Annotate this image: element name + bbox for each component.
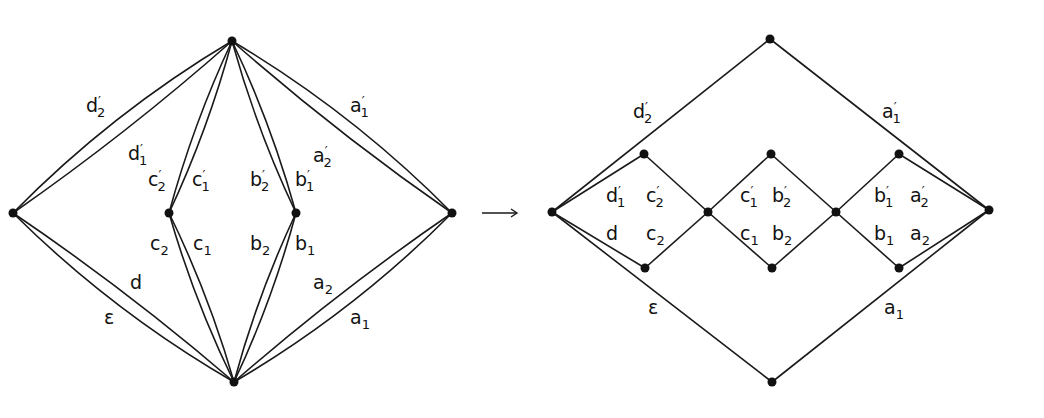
vertex-bottom [230,378,239,387]
vertex-d3-bottom [895,264,904,273]
vertex-top [766,35,775,44]
vertex-inner-left [165,209,174,218]
edge-label: d′1 [128,141,147,168]
vertex-left [9,209,18,218]
edge-label: c′2 [148,167,166,194]
edge-label: ε [104,306,114,328]
edge-label: a2 [313,271,333,297]
edge-label: d [606,222,618,244]
edge-label: b′1 [874,183,893,210]
vertex-mid2 [832,208,841,217]
edge-label: c′1 [740,183,758,210]
edge-label: c1 [740,222,759,248]
edge-label: b′1 [295,167,314,194]
edge-label: ε [648,296,658,318]
edge-label: b′2 [250,167,269,194]
edge-label: d [130,271,142,293]
edge-label: d′2 [86,93,105,120]
edge [234,213,452,382]
vertex-d1-top [640,150,649,159]
edge [234,213,296,382]
edge-label: a2 [910,222,930,248]
vertex-d3-top [895,150,904,159]
edge-label: a′1 [350,93,369,120]
edge [552,212,645,268]
edge [234,213,296,382]
edge-label: c2 [646,222,665,248]
vertex-top [228,37,237,46]
edge-label: d′2 [633,99,652,126]
edge-label: b2 [772,222,792,248]
edge-label: a′2 [910,183,929,210]
vertex-right [448,209,457,218]
vertex-d2-bottom [768,264,777,273]
edge-label: b′2 [772,183,791,210]
edge-label: c′2 [646,183,664,210]
right-graph-chain-of-diamonds: d′2a′1d′1c′2dc2c′1b′2c1b2b′1a′2b1a2εa1 [548,35,994,387]
edge-label: c1 [193,232,212,258]
vertex-left [548,208,557,217]
edge-label: b1 [874,222,894,248]
edge-label: c2 [150,232,169,258]
edge-label: a′1 [882,99,901,126]
edge [234,213,452,382]
edge [552,154,644,212]
vertex-inner-right [292,209,301,218]
vertex-d2-top [767,150,776,159]
vertex-right [985,206,994,215]
edge-label: a′2 [313,143,332,170]
edge-label: b1 [295,232,315,258]
graph-transformation-diagram: d′2d′1c′2c′1b′2b′1a′2a′1dεc2c1b2b1a2a1 d… [0,0,1044,418]
left-multigraph: d′2d′1c′2c′1b′2b′1a′2a′1dεc2c1b2b1a2a1 [9,37,457,387]
edge-label: b2 [250,232,270,258]
edge-label: a1 [350,306,370,332]
edge-label: c′1 [192,167,210,194]
vertex-mid1 [704,208,713,217]
vertex-d1-bottom [641,264,650,273]
edge-label: a1 [884,296,904,322]
edge-label: d′1 [606,183,625,210]
transformation-arrow-icon [482,209,517,217]
vertex-bottom [768,378,777,387]
